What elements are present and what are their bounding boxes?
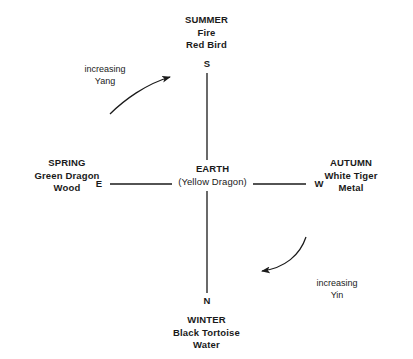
winter-element: Black Tortoise [0, 327, 413, 340]
center-subtitle: (Yellow Dragon) [150, 176, 275, 189]
increasing-yin-label: increasing Yin [296, 277, 378, 301]
center-label-earth: EARTH (Yellow Dragon) [150, 163, 275, 188]
yang-label-line2: Yang [64, 75, 146, 87]
direction-letter-east: E [88, 178, 110, 191]
increasing-yang-label: increasing Yang [64, 63, 146, 87]
yin-label-line1: increasing [296, 277, 378, 289]
winter-animal: Water [0, 339, 413, 352]
yin-label-line2: Yin [296, 289, 378, 301]
direction-letter-south: S [196, 58, 218, 71]
center-title: EARTH [150, 163, 275, 176]
quadrant-label-winter: WINTER Black Tortoise Water [0, 314, 413, 352]
cosmology-diagram: SUMMER Fire Red Bird WINTER Black Tortoi… [0, 0, 413, 359]
summer-season: SUMMER [0, 14, 413, 27]
direction-letter-north: N [196, 295, 218, 308]
summer-animal: Red Bird [0, 39, 413, 52]
spring-season: SPRING [8, 157, 126, 170]
increasing-yin-arrow [262, 237, 306, 271]
direction-letter-west: W [308, 178, 330, 191]
yang-label-line1: increasing [64, 63, 146, 75]
winter-season: WINTER [0, 314, 413, 327]
summer-element: Fire [0, 27, 413, 40]
autumn-season: AUTUMN [292, 157, 410, 170]
quadrant-label-summer: SUMMER Fire Red Bird [0, 14, 413, 52]
